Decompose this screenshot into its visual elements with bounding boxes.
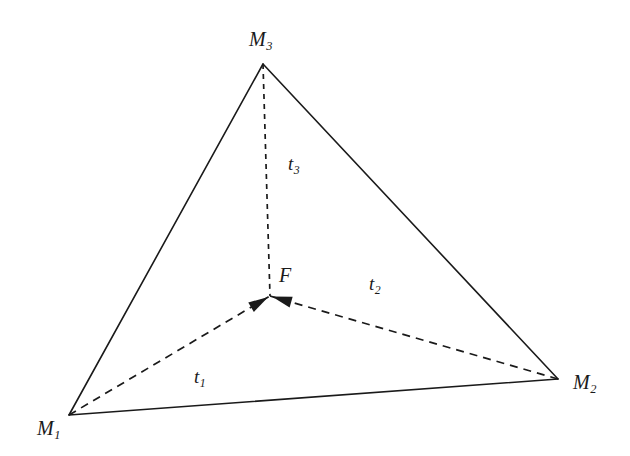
segment-label-t1: t1 [194, 367, 206, 390]
vertex-label-m2: M2 [573, 372, 596, 396]
segment-label-t3: t3 [288, 154, 300, 177]
tension-segment-t2 [270, 296, 558, 379]
vertex-label-m1-base: M [37, 417, 54, 439]
arrowhead-t1 [248, 297, 268, 312]
segment-label-t1-sub: 1 [200, 377, 206, 390]
arrowhead-t2 [272, 297, 293, 308]
fermat-point-label: F [279, 265, 291, 285]
vertex-label-m1-sub: 1 [54, 428, 60, 442]
vertex-label-m3-base: M [249, 28, 266, 50]
vertex-label-m3: M3 [249, 29, 272, 53]
segment-label-t2-base: t [369, 273, 374, 294]
vertex-label-m1: M1 [37, 418, 60, 442]
segment-label-t3-base: t [288, 153, 293, 174]
segment-label-t2: t2 [369, 274, 381, 297]
tension-segment-t3 [263, 64, 270, 296]
triangle-edge-m3-m1 [69, 64, 263, 415]
triangle-edge-m2-m3 [263, 64, 558, 379]
segment-label-t3-sub: 3 [294, 164, 300, 177]
vertex-label-m2-sub: 2 [590, 382, 596, 396]
triangle-edge-m1-m2 [69, 379, 558, 415]
vertex-label-m2-base: M [573, 371, 590, 393]
segment-label-t2-sub: 2 [375, 284, 381, 297]
triangle-diagram-svg [0, 0, 630, 456]
tension-segment-t1 [69, 296, 270, 415]
figure-canvas: M1 M2 M3 F t1 t2 t3 [0, 0, 630, 456]
fermat-point-label-text: F [279, 264, 291, 286]
vertex-label-m3-sub: 3 [266, 39, 272, 53]
segment-label-t1-base: t [194, 366, 199, 387]
